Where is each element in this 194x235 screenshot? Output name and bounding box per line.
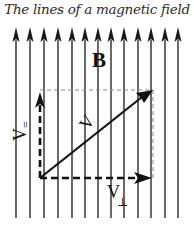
diagram-svg: B V V = V ⊥ <box>0 0 194 235</box>
v-velocity-arrow <box>40 90 153 178</box>
field-arrowhead-icon <box>148 27 155 42</box>
field-label-b: B <box>92 48 106 72</box>
svg-text:⊥: ⊥ <box>117 195 128 209</box>
field-arrowhead-icon <box>95 27 102 42</box>
svg-text:V: V <box>10 128 30 141</box>
arrowhead-right-icon <box>134 172 152 184</box>
velocity-label: V <box>75 111 99 133</box>
field-arrowhead-icon <box>55 27 62 42</box>
field-arrowhead-icon <box>135 27 142 42</box>
v-perpendicular-arrow <box>40 172 152 184</box>
field-arrowhead-icon <box>121 27 128 42</box>
field-arrowhead-icon <box>108 27 115 42</box>
field-arrowhead-icon <box>69 27 76 42</box>
field-arrowhead-icon <box>13 27 20 42</box>
svg-text:=: = <box>19 121 33 128</box>
v-parallel-label: V = <box>10 121 33 141</box>
field-arrowhead-icon <box>41 27 48 42</box>
magnetic-field-diagram: The lines of a magnetic field B V <box>0 0 194 235</box>
field-arrowhead-icon <box>162 27 169 42</box>
v-perpendicular-label: V ⊥ <box>107 182 128 209</box>
field-arrowhead-icon <box>175 27 182 42</box>
field-arrowhead-icon <box>27 27 34 42</box>
field-arrowhead-icon <box>82 27 89 42</box>
